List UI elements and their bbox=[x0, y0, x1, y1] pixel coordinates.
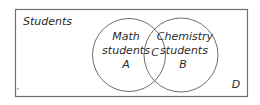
set-a-label-line2: students bbox=[102, 44, 150, 57]
set-a-region-label: A bbox=[121, 58, 130, 71]
universe-region-label: D bbox=[232, 78, 240, 91]
stray-mark bbox=[17, 88, 19, 90]
set-b-region-label: B bbox=[179, 58, 187, 71]
universe-label: Students bbox=[23, 15, 72, 28]
set-b-label-line2: students bbox=[160, 44, 208, 57]
set-a-label-line1: Math bbox=[112, 30, 140, 43]
set-b-label-line1: Chemistry bbox=[157, 30, 214, 43]
venn-diagram: Students Math students A C Chemistry stu… bbox=[0, 0, 260, 105]
intersection-region-label: C bbox=[151, 46, 159, 59]
